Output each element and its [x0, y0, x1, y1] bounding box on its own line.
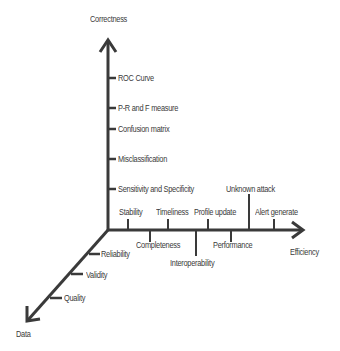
data-item-quality: Quality: [64, 293, 85, 303]
correctness-item-roc-curve: ROC Curve: [118, 73, 154, 83]
data-item-validity: Validity: [86, 270, 107, 280]
efficiency-item-stability: Stability: [119, 207, 143, 217]
efficiency-item-interoperability: Interoperability: [170, 258, 214, 268]
data-item-reliability: Reliability: [101, 249, 130, 259]
correctness-item-sensitivity-specificity: Sensitivity and Specificity: [118, 184, 194, 194]
axes-graphic: [0, 0, 340, 351]
correctness-item-confusion-matrix: Confusion matrix: [118, 124, 169, 134]
correctness-item-pr-f-measure: P-R and F measure: [118, 103, 178, 113]
efficiency-item-alert-generate: Alert generate: [255, 207, 298, 217]
efficiency-item-profile-update: Profile update: [194, 207, 236, 217]
efficiency-item-completeness: Completeness: [136, 240, 180, 250]
correctness-item-misclassification: Misclassification: [118, 154, 167, 164]
data-axis-label: Data: [16, 329, 31, 339]
efficiency-item-timeliness: Timeliness: [156, 207, 188, 217]
efficiency-item-unknown-attack: Unknown attack: [226, 184, 275, 194]
correctness-axis-label: Correctness: [90, 14, 127, 24]
efficiency-item-performance: Performance: [213, 240, 252, 250]
efficiency-axis-label: Efficiency: [290, 247, 319, 257]
evaluation-metrics-diagram: Correctness Efficiency Data ROC Curve P-…: [0, 0, 340, 351]
